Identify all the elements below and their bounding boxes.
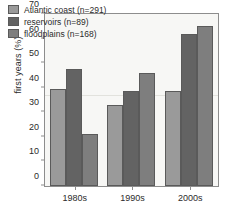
x-tick-mark — [75, 186, 76, 190]
bar[interactable] — [50, 89, 66, 186]
y-tick-label: 50 — [5, 48, 45, 58]
legend-item[interactable]: floodplains (n=168) — [8, 28, 106, 39]
bar[interactable] — [165, 91, 181, 186]
plot-area: 010203040506070 1980s1990s2000s — [44, 13, 219, 187]
bar[interactable] — [82, 134, 98, 186]
y-tick-label: 20 — [5, 122, 45, 132]
x-tick-label: 2000s — [178, 193, 203, 203]
legend-item[interactable]: Atlantic coast (n=291) — [8, 4, 106, 15]
legend-label: reservoirs (n=89) — [24, 17, 88, 27]
legend-swatch-icon — [8, 29, 19, 38]
x-tick-mark — [190, 186, 191, 190]
legend-label: floodplains (n=168) — [24, 29, 97, 39]
bar[interactable] — [66, 69, 82, 186]
legend-swatch-icon — [8, 5, 19, 14]
bar[interactable] — [107, 105, 123, 186]
bar[interactable] — [197, 26, 213, 186]
y-tick-label: 30 — [5, 97, 45, 107]
y-tick-label: 0 — [5, 171, 45, 181]
x-tick-label: 1990s — [120, 193, 145, 203]
y-tick-label: 40 — [5, 73, 45, 83]
chart-legend: Atlantic coast (n=291)reservoirs (n=89)f… — [8, 4, 106, 39]
bar-chart-figure: first years (%) 010203040506070 1980s199… — [0, 0, 234, 214]
legend-label: Atlantic coast (n=291) — [24, 5, 106, 15]
x-tick-mark — [132, 186, 133, 190]
bar-group — [107, 14, 155, 186]
bar[interactable] — [139, 73, 155, 186]
bar[interactable] — [123, 91, 139, 186]
bar-group — [50, 14, 98, 186]
legend-item[interactable]: reservoirs (n=89) — [8, 16, 106, 27]
legend-swatch-icon — [8, 17, 19, 26]
bar[interactable] — [181, 34, 197, 186]
bar-groups — [45, 14, 218, 186]
y-tick-label: 10 — [5, 146, 45, 156]
bar-group — [165, 14, 213, 186]
x-tick-label: 1980s — [63, 193, 88, 203]
